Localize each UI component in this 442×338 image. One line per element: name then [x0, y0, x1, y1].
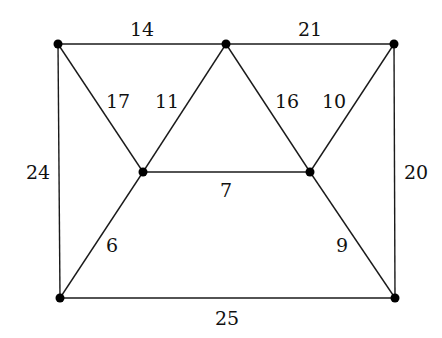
edge-weight-label: 21	[298, 20, 322, 39]
edge-weight-label: 16	[275, 92, 299, 111]
edge-weight-label: 14	[130, 20, 154, 39]
edge-A-D	[58, 44, 143, 172]
vertex-C	[390, 40, 399, 49]
vertex-G	[391, 294, 400, 303]
edge-weight-label: 6	[106, 236, 118, 255]
graph-canvas	[0, 0, 442, 338]
vertex-A	[54, 40, 63, 49]
edge-D-F	[60, 172, 143, 298]
vertex-B	[222, 40, 231, 49]
edge-weight-label: 10	[322, 92, 346, 111]
edge-weight-label: 11	[155, 92, 179, 111]
vertex-F	[56, 294, 65, 303]
edge-weight-label: 7	[220, 181, 232, 200]
vertex-E	[306, 168, 315, 177]
edge-A-F	[58, 44, 60, 298]
edge-weight-label: 9	[336, 236, 348, 255]
weighted-graph-diagram: 142117111610242076925	[0, 0, 442, 338]
edge-weight-label: 25	[215, 309, 239, 328]
edge-C-G	[394, 44, 395, 298]
edge-weight-label: 24	[26, 163, 50, 182]
edge-E-G	[310, 172, 395, 298]
edges-group	[58, 44, 395, 298]
vertex-D	[139, 168, 148, 177]
edge-weight-label: 17	[106, 92, 130, 111]
nodes-group	[54, 40, 400, 303]
edge-weight-label: 20	[404, 163, 428, 182]
